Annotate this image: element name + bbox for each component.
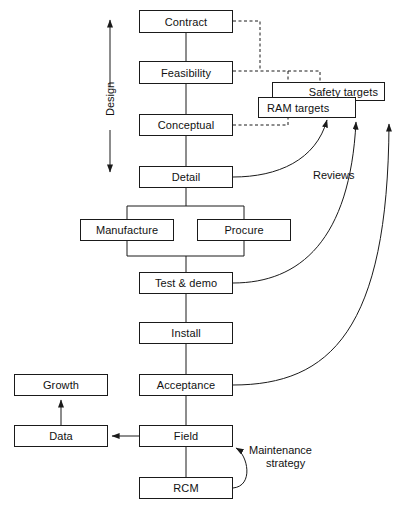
maintenance-strategy-label-line1: Maintenance	[249, 444, 312, 456]
node-data[interactable]: Data	[14, 425, 108, 447]
node-ram-targets[interactable]: RAM targets	[258, 97, 356, 118]
solid-connector-spine	[127, 33, 244, 477]
node-detail[interactable]: Detail	[139, 166, 233, 188]
node-acceptance[interactable]: Acceptance	[139, 374, 233, 396]
node-label: Detail	[172, 171, 201, 183]
node-label: Install	[171, 327, 200, 339]
node-rcm[interactable]: RCM	[139, 477, 233, 499]
node-label: Test & demo	[155, 277, 217, 289]
node-growth[interactable]: Growth	[14, 374, 108, 396]
curved-review-arrow-acceptance	[233, 124, 389, 385]
node-label: Procure	[224, 224, 263, 236]
node-label: Conceptual	[158, 119, 215, 131]
node-label: Safety targets	[309, 86, 378, 98]
node-test-and-demo[interactable]: Test & demo	[139, 272, 233, 294]
node-conceptual[interactable]: Conceptual	[139, 114, 233, 136]
curved-review-arrow-test-demo	[233, 122, 356, 283]
maintenance-strategy-label-line2: strategy	[266, 457, 305, 469]
maintenance-strategy-arrow	[233, 448, 247, 488]
node-feasibility[interactable]: Feasibility	[139, 61, 233, 84]
node-label: Growth	[43, 379, 79, 391]
node-field[interactable]: Field	[139, 425, 233, 447]
curved-review-arrow-group	[233, 120, 389, 385]
node-label: Data	[49, 430, 73, 442]
design-phase-label: Design	[104, 82, 116, 116]
node-label: Feasibility	[161, 67, 211, 79]
node-manufacture[interactable]: Manufacture	[80, 219, 174, 241]
flowchart-diagram: Contract Feasibility Safety targets RAM …	[0, 0, 403, 511]
node-label: Manufacture	[96, 224, 158, 236]
node-label: RCM	[173, 482, 198, 494]
node-label: Acceptance	[157, 379, 215, 391]
node-install[interactable]: Install	[139, 322, 233, 344]
node-label: Field	[174, 430, 198, 442]
node-label: Contract	[165, 16, 207, 28]
node-contract[interactable]: Contract	[139, 10, 233, 33]
node-procure[interactable]: Procure	[197, 219, 291, 241]
node-label: RAM targets	[267, 102, 329, 114]
reviews-label: Reviews	[313, 169, 355, 181]
